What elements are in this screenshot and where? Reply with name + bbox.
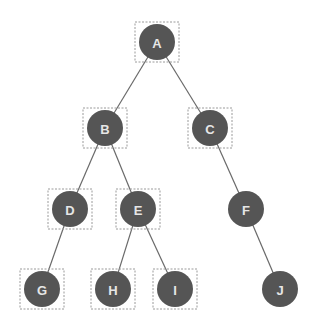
node-label: I xyxy=(173,283,177,298)
tree-node-g[interactable]: G xyxy=(20,269,64,309)
tree-node-a[interactable]: A xyxy=(135,22,179,62)
tree-node-f[interactable]: F xyxy=(228,191,264,227)
node-label: E xyxy=(134,203,143,218)
node-label: J xyxy=(276,283,283,298)
node-label: A xyxy=(152,36,162,51)
node-label: H xyxy=(108,283,117,298)
edges-layer xyxy=(42,42,280,289)
nodes-layer: ABCDEFGHIJ xyxy=(20,22,298,309)
tree-node-h[interactable]: H xyxy=(91,269,135,309)
tree-node-c[interactable]: C xyxy=(188,108,232,148)
tree-node-i[interactable]: I xyxy=(153,269,197,309)
node-label: B xyxy=(100,122,109,137)
tree-node-j[interactable]: J xyxy=(262,271,298,307)
node-label: F xyxy=(242,203,250,218)
node-label: G xyxy=(37,283,47,298)
tree-node-d[interactable]: D xyxy=(48,189,92,229)
node-label: C xyxy=(205,122,215,137)
tree-node-b[interactable]: B xyxy=(83,108,127,148)
tree-diagram: ABCDEFGHIJ xyxy=(0,0,315,329)
tree-node-e[interactable]: E xyxy=(116,189,160,229)
node-label: D xyxy=(65,203,74,218)
